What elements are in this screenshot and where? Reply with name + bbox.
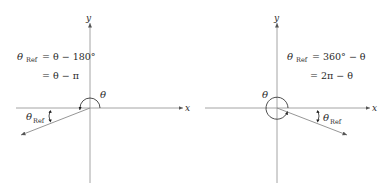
reference-angle-diagram: x y θ θ Ref θ Ref = θ − 180° = θ − π x y… — [0, 0, 389, 191]
left-ref-symbol: θ — [26, 111, 32, 122]
left-formula-lhs-sub: Ref — [26, 56, 38, 64]
left-ref-subscript: Ref — [33, 117, 45, 125]
left-x-label: x — [185, 103, 190, 113]
right-x-label: x — [372, 103, 377, 113]
right-formula-lhs-sub: Ref — [296, 56, 308, 64]
right-ref-symbol: θ — [323, 112, 329, 123]
left-ref-arrowhead-bottom — [49, 120, 52, 123]
right-formula-lhs-symbol: θ — [287, 51, 293, 62]
right-formula-line2: = 2π − θ — [310, 70, 353, 81]
right-ref-arrowhead-bottom — [316, 120, 319, 123]
left-formula-line1: = θ − 180° — [42, 51, 96, 62]
right-ref-arrowhead-top — [316, 110, 319, 113]
left-y-label: y — [85, 13, 92, 23]
left-ref-arrowhead-top — [49, 110, 52, 113]
right-formula-line1: = 360° − θ — [312, 51, 366, 62]
diagram-canvas: x y θ θ Ref θ Ref = θ − 180° = θ − π x y… — [0, 0, 389, 191]
right-y-label: y — [273, 13, 280, 23]
left-formula-lhs-symbol: θ — [17, 51, 23, 62]
right-theta-label: θ — [262, 89, 268, 100]
left-panel: x y θ θ Ref θ Ref = θ − 180° = θ − π — [16, 13, 190, 183]
right-panel: x y θ θ Ref θ Ref = 360° − θ = 2π − θ — [205, 13, 377, 183]
left-formula-line2: = θ − π — [42, 70, 79, 81]
right-ref-subscript: Ref — [330, 118, 342, 126]
left-theta-label: θ — [100, 89, 106, 100]
